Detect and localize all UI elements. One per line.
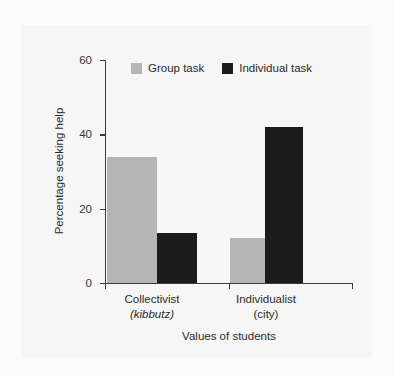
bar-collectivist-group-task (107, 157, 157, 283)
bar-individualist-individual-task (265, 127, 303, 283)
y-tick-label-20: 20 (79, 203, 92, 215)
chart-legend: Group task Individual task (131, 62, 312, 74)
bar-collectivist-individual-task (157, 233, 197, 283)
legend-entry-individual-task: Individual task (222, 62, 312, 74)
y-tick-60: 60 (100, 60, 105, 61)
x-tick-left (105, 284, 106, 289)
legend-swatch-individual-task-icon (222, 63, 233, 74)
x-axis-title: Values of students (182, 330, 276, 342)
x-category-name-collectivist: Collectivist (125, 292, 180, 307)
x-category-name-individualist: Individualist (236, 292, 296, 307)
x-tick-right (352, 284, 353, 289)
x-tick-middle (229, 284, 230, 289)
legend-label-individual-task: Individual task (239, 62, 312, 74)
y-tick-label-60: 60 (79, 54, 92, 66)
y-tick-20: 20 (100, 209, 105, 210)
y-axis-title: Percentage seeking help (53, 108, 65, 235)
legend-swatch-group-task-icon (131, 63, 142, 74)
x-category-sublabel-collectivist: (kibbutz) (125, 307, 180, 322)
y-tick-label-40: 40 (79, 128, 92, 140)
y-tick-40: 40 (100, 134, 105, 135)
x-category-sublabel-individualist: (city) (236, 307, 296, 322)
legend-entry-group-task: Group task (131, 62, 204, 74)
chart-figure: Percentage seeking help 60 40 20 0 Colle… (0, 0, 394, 376)
bar-individualist-group-task (230, 238, 265, 283)
x-category-label-collectivist: Collectivist (kibbutz) (125, 292, 180, 322)
legend-label-group-task: Group task (148, 62, 204, 74)
plot-area: 60 40 20 0 Collectivist (kibbutz) Indivi… (105, 60, 353, 283)
x-category-label-individualist: Individualist (city) (236, 292, 296, 322)
y-tick-label-0: 0 (86, 277, 92, 289)
